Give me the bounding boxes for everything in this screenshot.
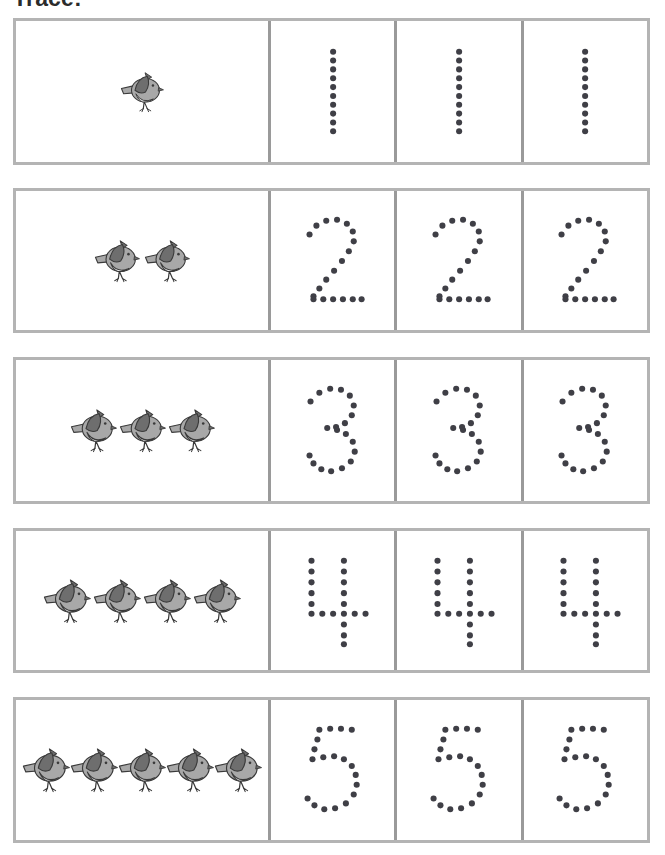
trace-1-b[interactable] <box>394 21 520 162</box>
bird-icon <box>93 578 141 624</box>
trace-3-b[interactable] <box>394 360 520 501</box>
worksheet-row-2 <box>13 188 650 333</box>
dotted-numeral-3 <box>410 375 508 487</box>
trace-2-c[interactable] <box>521 191 647 330</box>
trace-5-b[interactable] <box>394 700 520 840</box>
trace-2-a[interactable] <box>268 191 394 330</box>
bird-icon <box>143 578 191 624</box>
count-cell-4 <box>16 531 268 670</box>
worksheet-row-5 <box>13 697 650 843</box>
dotted-numeral-1 <box>284 36 382 148</box>
dotted-numeral-4 <box>284 545 382 657</box>
bird-group-2 <box>94 239 190 283</box>
trace-5-c[interactable] <box>521 700 647 840</box>
trace-1-a[interactable] <box>268 21 394 162</box>
bird-icon <box>214 746 262 794</box>
dotted-numeral-1 <box>536 36 634 148</box>
trace-4-b[interactable] <box>394 531 520 670</box>
bird-icon <box>94 239 140 283</box>
dotted-numeral-5 <box>536 714 634 826</box>
dotted-numeral-2 <box>536 205 634 317</box>
dotted-numeral-3 <box>536 375 634 487</box>
trace-5-a[interactable] <box>268 700 394 840</box>
bird-group-1 <box>120 71 164 113</box>
dotted-numeral-5 <box>410 714 508 826</box>
dotted-numeral-4 <box>410 545 508 657</box>
worksheet-row-1 <box>13 18 650 165</box>
count-cell-1 <box>16 21 268 162</box>
worksheet-row-3 <box>13 357 650 504</box>
dotted-numeral-1 <box>410 36 508 148</box>
bird-group-5 <box>22 746 262 794</box>
trace-4-a[interactable] <box>268 531 394 670</box>
bird-icon <box>43 578 91 624</box>
bird-icon <box>144 239 190 283</box>
bird-icon <box>22 746 70 794</box>
dotted-numeral-5 <box>284 714 382 826</box>
trace-2-b[interactable] <box>394 191 520 330</box>
bird-icon <box>120 71 164 113</box>
bird-icon <box>70 408 117 453</box>
bird-icon <box>118 746 166 794</box>
bird-icon <box>168 408 215 453</box>
bird-icon <box>193 578 241 624</box>
worksheet-row-4 <box>13 528 650 673</box>
count-cell-2 <box>16 191 268 330</box>
bird-group-4 <box>43 578 241 624</box>
trace-4-c[interactable] <box>521 531 647 670</box>
bird-group-3 <box>70 408 215 453</box>
page-title: Trace: <box>13 0 82 10</box>
bird-icon <box>119 408 166 453</box>
bird-icon <box>70 746 118 794</box>
trace-1-c[interactable] <box>521 21 647 162</box>
trace-3-a[interactable] <box>268 360 394 501</box>
dotted-numeral-2 <box>410 205 508 317</box>
trace-3-c[interactable] <box>521 360 647 501</box>
dotted-numeral-2 <box>284 205 382 317</box>
count-cell-5 <box>16 700 268 840</box>
count-cell-3 <box>16 360 268 501</box>
dotted-numeral-4 <box>536 545 634 657</box>
dotted-numeral-3 <box>284 375 382 487</box>
bird-icon <box>166 746 214 794</box>
